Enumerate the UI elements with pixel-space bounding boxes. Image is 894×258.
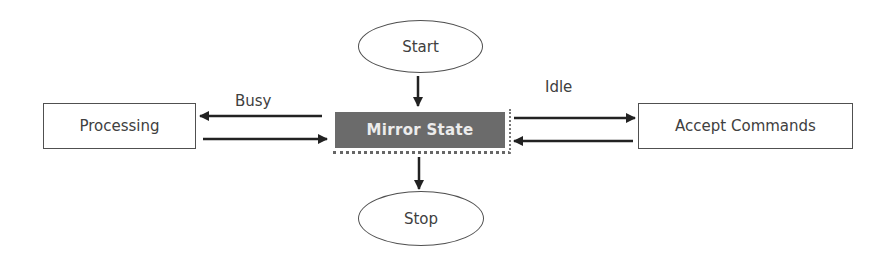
start-node: Start [358,20,483,73]
start-label: Start [402,38,439,56]
accept-commands-label: Accept Commands [675,117,816,135]
processing-node: Processing [43,103,196,149]
processing-label: Processing [79,117,159,135]
mirror-state-box: Mirror State [335,112,505,148]
stop-label: Stop [404,210,438,228]
stop-node: Stop [358,191,484,246]
busy-edge-label: Busy [235,92,272,110]
mirror-state-label: Mirror State [367,121,474,139]
mirror-state-node: Mirror State [333,109,511,154]
idle-edge-label: Idle [545,78,572,96]
accept-commands-node: Accept Commands [638,103,853,149]
